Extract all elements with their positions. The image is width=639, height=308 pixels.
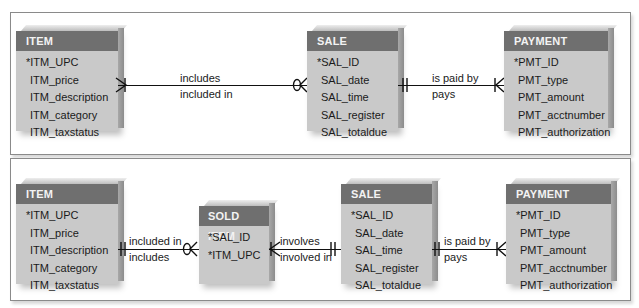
entity-attr: ITM_taxstatus: [26, 277, 118, 295]
entity-title: ITEM: [16, 31, 118, 51]
entity-attr-pk: *PMT_ID: [514, 54, 608, 72]
entity-attr: SAL_date: [317, 72, 398, 90]
entity-attr: PMT_acctnumber: [516, 260, 611, 278]
relationship-label: pays: [444, 251, 467, 263]
crowfoot-zero-or-many-icon: [182, 241, 200, 257]
entity-attr: PMT_authorization: [514, 124, 608, 142]
relationship-line-item-sale: [118, 85, 308, 86]
entity-title: PAYMENT: [504, 31, 608, 51]
relationship-label: included in: [180, 88, 233, 100]
crowfoot-one-and-only-one-icon: [118, 241, 128, 257]
relationship-label: is paid by: [432, 72, 478, 84]
entity-attr: ITM_price: [26, 225, 118, 243]
entity-attr: PMT_type: [514, 72, 608, 90]
entity-attr: ITM_taxstatus: [26, 124, 118, 142]
entity-attr: PMT_acctnumber: [514, 107, 608, 125]
crowfoot-one-and-only-one-icon: [400, 77, 410, 93]
entity-payment-bottom[interactable]: PAYMENT *PMT_ID PMT_type PMT_amount PMT_…: [506, 184, 611, 284]
relationship-label: included in: [129, 235, 182, 247]
entity-attr: SAL_register: [317, 107, 398, 125]
entity-attr: PMT_type: [516, 225, 611, 243]
relationship-label: involves: [280, 235, 320, 247]
entity-title: SALE: [341, 184, 432, 204]
entity-attr: PMT_amount: [516, 242, 611, 260]
entity-attr-pk: *ITM_UPC: [26, 207, 118, 225]
relationship-label: pays: [432, 88, 455, 100]
entity-item-top[interactable]: ITEM *ITM_UPC ITM_price ITM_description …: [16, 31, 118, 131]
relationship-label: is paid by: [444, 235, 490, 247]
entity-attr-pk: *SAL_ID: [317, 54, 398, 72]
entity-attr-pk: *SAL_ID: [208, 229, 269, 247]
crowfoot-many-icon: [114, 77, 128, 93]
entity-attr-pk: *SAL_ID: [351, 207, 432, 225]
entity-attr: SAL_totaldue: [317, 124, 398, 142]
entity-attr: SAL_register: [351, 260, 432, 278]
entity-attr-pk: *PMT_ID: [516, 207, 611, 225]
entity-sale-bottom[interactable]: SALE *SAL_ID SAL_date SAL_time SAL_regis…: [341, 184, 432, 284]
crowfoot-one-and-only-one-icon: [432, 241, 442, 257]
entity-title: PAYMENT: [506, 184, 611, 204]
entity-sold-item[interactable]: SOLD ITEM *SAL_ID *ITM_UPC: [199, 206, 269, 284]
entity-attr-pk: *ITM_UPC: [208, 247, 269, 265]
entity-attr: PMT_authorization: [516, 277, 611, 295]
entity-item-bottom[interactable]: ITEM *ITM_UPC ITM_price ITM_description …: [16, 184, 118, 284]
entity-attr: PMT_amount: [514, 89, 608, 107]
entity-attr: SAL_time: [351, 242, 432, 260]
entity-attr: ITM_price: [26, 72, 118, 90]
entity-attr: ITM_description: [26, 242, 118, 260]
entity-attr: SAL_date: [351, 225, 432, 243]
entity-payment-top[interactable]: PAYMENT *PMT_ID PMT_type PMT_amount PMT_…: [504, 31, 608, 131]
entity-attr-pk: *ITM_UPC: [26, 54, 118, 72]
entity-attr: SAL_time: [317, 89, 398, 107]
entity-title: SOLD ITEM: [199, 206, 269, 226]
relationship-label: involved in: [280, 251, 332, 263]
relationship-label: includes: [180, 72, 220, 84]
entity-attr: SAL_totaldue: [351, 277, 432, 295]
relationship-label: includes: [129, 251, 169, 263]
entity-attr: ITM_category: [26, 260, 118, 278]
entity-title: ITEM: [16, 184, 118, 204]
relationship-line-sale-payment: [398, 85, 504, 86]
entity-attr: ITM_description: [26, 89, 118, 107]
entity-title: SALE: [307, 31, 398, 51]
entity-sale-top[interactable]: SALE *SAL_ID SAL_date SAL_time SAL_regis…: [307, 31, 398, 131]
entity-attr: ITM_category: [26, 107, 118, 125]
